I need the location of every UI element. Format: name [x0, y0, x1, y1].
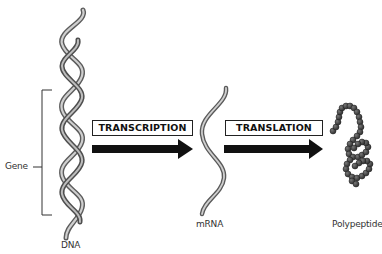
gene-bracket — [33, 90, 52, 215]
mrna-label: mRNA — [196, 219, 223, 229]
translation-arrow — [224, 139, 323, 159]
mrna-strand-icon — [202, 88, 226, 214]
translation-label: TRANSLATION — [236, 122, 312, 133]
transcription-label-box: TRANSCRIPTION — [92, 120, 193, 136]
translation-label-box: TRANSLATION — [225, 120, 323, 136]
transcription-label: TRANSCRIPTION — [98, 122, 186, 133]
polypeptide-chain-icon — [330, 103, 373, 187]
dna-helix-icon — [61, 10, 83, 238]
transcription-arrow — [92, 139, 193, 159]
gene-label: Gene — [5, 161, 28, 171]
dna-label: DNA — [61, 240, 80, 250]
polypeptide-label: Polypeptide — [332, 219, 382, 229]
